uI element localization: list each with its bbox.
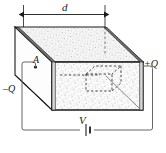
label-point-a: A <box>33 55 39 65</box>
plate-left-front-face <box>52 62 55 110</box>
capacitor-figure: d A +Q –Q V <box>0 0 166 153</box>
plate-right-front-face <box>140 62 143 110</box>
label-voltage: V <box>79 115 86 126</box>
dielectric-slab <box>15 27 144 110</box>
label-separation-d: d <box>62 2 68 13</box>
slab-front-face <box>52 62 143 110</box>
figure-canvas <box>0 0 166 153</box>
label-negative-charge: –Q <box>3 84 15 94</box>
battery-symbol <box>86 124 90 136</box>
label-positive-charge: +Q <box>144 59 158 69</box>
